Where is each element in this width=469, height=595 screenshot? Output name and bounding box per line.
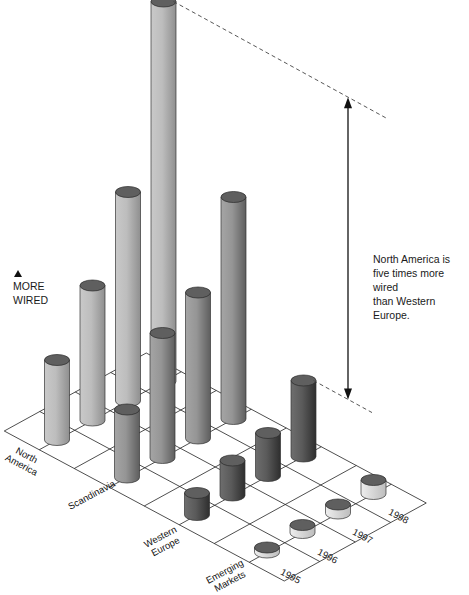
cylinder-western-europe-1997: [256, 428, 281, 482]
cylinder-scandinavia-1996: [150, 328, 175, 464]
cylinder-emerging-markets-1995: [255, 542, 280, 558]
cylinder-scandinavia-1997: [186, 287, 211, 444]
comparison-annotation: North America is five times more wired t…: [373, 252, 468, 322]
guide-line-bottom: [314, 381, 373, 413]
cylinder-scandinavia-1995: [115, 404, 140, 483]
cylinders: [45, 0, 387, 558]
y-axis-label: MORE WIRED: [13, 270, 73, 307]
cylinder-north-america-1997: [116, 187, 141, 407]
cylinder-scandinavia-1998: [221, 192, 246, 425]
arrow-up-icon: [344, 97, 352, 108]
cylinder-emerging-markets-1998: [361, 475, 386, 500]
cylinder-north-america-1996: [80, 280, 105, 426]
cylinder-western-europe-1995: [185, 488, 210, 521]
cylinder-emerging-markets-1997: [326, 499, 351, 519]
up-triangle-icon: [14, 270, 22, 277]
cylinder-western-europe-1998: [291, 375, 316, 462]
cylinder-western-europe-1996: [220, 455, 245, 501]
guide-line-top: [174, 2, 387, 118]
cylinder-emerging-markets-1996: [290, 520, 315, 539]
cylinder-north-america-1995: [45, 355, 70, 446]
